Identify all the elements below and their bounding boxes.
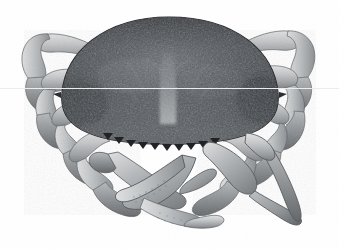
crab-photograph [0, 0, 339, 249]
crab-illustration [0, 0, 339, 249]
image-canvas [0, 0, 339, 249]
film-grain [0, 0, 339, 249]
